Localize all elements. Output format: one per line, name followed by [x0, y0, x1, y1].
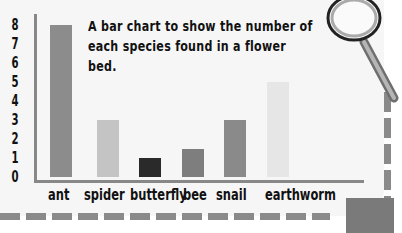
y-tick-label: 0 — [10, 169, 21, 185]
magnifying-glass-icon — [322, 0, 402, 104]
x-label-spider: spider — [84, 186, 125, 204]
chart-title: A bar chart to show the number of each s… — [88, 16, 317, 76]
corner-decoration — [346, 198, 394, 233]
y-axis — [34, 14, 37, 181]
bar-snail — [224, 120, 246, 177]
x-label-earthworm: earthworm — [265, 186, 336, 204]
y-tick-label: 1 — [10, 150, 21, 166]
y-tick-label: 7 — [10, 36, 21, 52]
x-label-bee: bee — [183, 186, 207, 204]
bar-spider — [97, 120, 119, 177]
bar-ant — [50, 25, 72, 177]
bar-earthworm — [267, 82, 289, 177]
x-label-snail: snail — [216, 186, 247, 204]
x-label-ant: ant — [48, 186, 69, 204]
y-tick-label: 8 — [10, 17, 21, 33]
x-label-butterfly: butterfly — [130, 186, 187, 204]
x-axis — [34, 180, 364, 183]
dashed-border-bottom — [0, 213, 330, 220]
dashed-border-right — [384, 92, 391, 202]
y-tick-label: 6 — [10, 55, 21, 71]
bar-bee — [182, 149, 204, 178]
y-tick-label: 5 — [10, 74, 21, 90]
y-tick-label: 3 — [10, 112, 21, 128]
y-tick-label: 4 — [10, 93, 21, 109]
bar-butterfly — [139, 158, 161, 177]
y-tick-label: 2 — [10, 131, 21, 147]
